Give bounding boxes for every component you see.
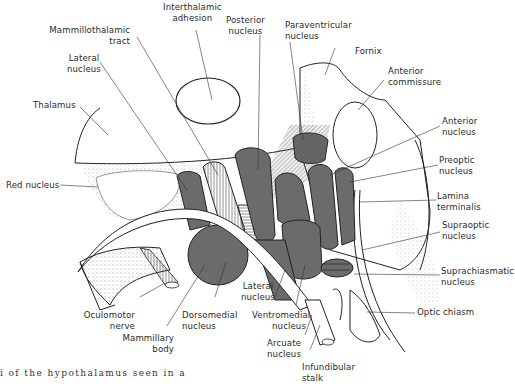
label-line: commissure — [388, 77, 441, 88]
label-line: Suprachiasmatic — [441, 266, 514, 277]
label-posterior-nucleus: Posterior nucleus — [226, 15, 265, 37]
label-arcuate-nucleus: Arcuate nucleus — [267, 338, 301, 360]
label-line: terminalis — [437, 202, 481, 213]
label-interthalamic-adhesion: Interthalamic adhesion — [163, 2, 222, 24]
label-thalamus: Thalamus — [33, 100, 76, 111]
label-anterior-commissure: Anterior commissure — [388, 66, 441, 88]
label-line: adhesion — [163, 13, 222, 24]
label-red-nucleus: Red nucleus — [6, 180, 59, 191]
label-line: Lateral — [67, 53, 101, 64]
label-line: tract — [44, 36, 130, 47]
label-lateral-nucleus-bottom: Lateral nucleus — [241, 281, 275, 303]
label-lateral-nucleus-top: Lateral nucleus — [67, 53, 101, 75]
label-line: Mammillary — [112, 333, 174, 344]
label-line: nucleus — [67, 64, 101, 75]
figure-caption-fragment: i of the hypothalamus seen in a — [0, 368, 186, 378]
label-line: Infundibular — [302, 362, 355, 373]
label-line: Lamina — [437, 191, 481, 202]
label-line: nucleus — [441, 277, 514, 288]
label-lamina-terminalis: Lamina terminalis — [437, 191, 481, 213]
label-infundibular-stalk: Infundibular stalk — [302, 362, 355, 384]
label-oculomotor-nerve: Oculomotor nerve — [80, 310, 135, 332]
label-line: Mammillothalamic — [44, 25, 130, 36]
label-line: nerve — [80, 321, 135, 332]
label-line: nucleus — [182, 321, 237, 332]
thalamus-shape — [75, 108, 100, 163]
optic-chiasm-shape — [350, 290, 380, 342]
label-line: nucleus — [226, 26, 265, 37]
label-line: Anterior — [388, 66, 441, 77]
label-line: nucleus — [442, 127, 478, 138]
label-line: nucleus — [439, 166, 475, 177]
label-line: nucleus — [267, 349, 301, 360]
label-dorsomedial-nucleus: Dorsomedial nucleus — [182, 310, 237, 332]
label-mammillary-body: Mammillary body — [112, 333, 174, 355]
label-line: Ventromedial — [252, 310, 306, 321]
label-line: body — [112, 344, 174, 355]
suprachiasmatic-nucleus-shape — [321, 259, 353, 277]
label-mammillothalamic-tract: Mammillothalamic tract — [44, 25, 130, 47]
label-line: Supraoptic — [442, 220, 489, 231]
label-line: nucleus — [285, 31, 352, 42]
label-line: stalk — [302, 373, 355, 384]
label-suprachiasmatic-nucleus: Suprachiasmatic nucleus — [441, 266, 514, 288]
label-preoptic-nucleus: Preoptic nucleus — [439, 155, 475, 177]
label-line: nucleus — [241, 292, 275, 303]
label-line: Paraventricular — [285, 20, 352, 31]
label-line: Posterior — [226, 15, 265, 26]
interthalamic-adhesion-shape — [176, 78, 240, 124]
label-line: Oculomotor — [80, 310, 135, 321]
anterior-commissure-shape — [333, 102, 377, 168]
label-anterior-nucleus: Anterior nucleus — [442, 116, 478, 138]
label-line: Anterior — [442, 116, 478, 127]
label-line: nucleus — [252, 321, 306, 332]
label-line: Arcuate — [267, 338, 301, 349]
label-supraoptic-nucleus: Supraoptic nucleus — [442, 220, 489, 242]
label-paraventricular-nucleus: Paraventricular nucleus — [285, 20, 352, 42]
label-ventromedial-nucleus: Ventromedial nucleus — [252, 310, 306, 332]
label-line: Interthalamic — [163, 2, 222, 13]
label-line: Dorsomedial — [182, 310, 237, 321]
label-line: nucleus — [442, 231, 489, 242]
label-line: Preoptic — [439, 155, 475, 166]
label-line: Lateral — [241, 281, 275, 292]
label-fornix: Fornix — [355, 46, 382, 57]
label-optic-chiasm: Optic chiasm — [417, 307, 474, 318]
